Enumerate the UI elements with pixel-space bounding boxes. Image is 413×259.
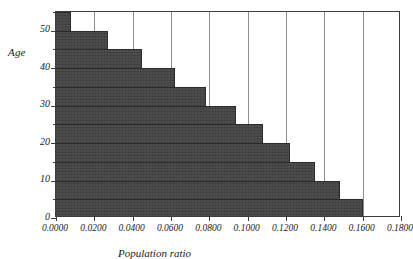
y-axis-tick-label-group: 01020304050 [26,11,50,217]
y-axis-tick-minor [53,124,56,125]
bar [56,106,236,125]
y-axis-tick-minor [53,162,56,163]
x-axis-tick-label: 0.0200 [80,223,106,233]
y-axis-tick-label: 50 [40,23,50,34]
y-axis-tick-minor [53,199,56,200]
y-axis-tick [51,106,56,107]
bar [56,49,142,68]
bar [56,143,290,162]
bar [56,68,175,87]
bar [56,199,363,216]
bar [56,12,71,31]
x-axis-tick-label: 0.1200 [272,223,298,233]
x-axis-tick [401,216,402,221]
gridline-vertical [363,12,364,216]
x-axis-tick-label: 0.1800 [387,223,413,233]
x-axis-tick-label: 0.1000 [234,223,260,233]
x-axis-title: Population ratio [118,247,191,259]
x-axis-tick-label: 0.0000 [42,223,68,233]
x-axis-tick-label: 0.0400 [119,223,145,233]
x-axis-tick-label-group: 0.00000.02000.04000.06000.08000.10000.12… [55,221,400,237]
bar [56,87,206,106]
bar [56,162,315,181]
x-axis-tick-label: 0.0600 [157,223,183,233]
bar [56,181,340,200]
y-axis-tick-label: 0 [45,211,50,222]
y-axis-tick-minor [53,49,56,50]
y-axis-tick-label: 20 [40,136,50,147]
plot-area [55,11,400,217]
y-axis-tick [51,143,56,144]
y-axis-tick-minor [53,12,56,13]
y-axis-tick [51,31,56,32]
y-axis-tick-label: 40 [40,61,50,72]
plot-inner [56,12,399,216]
y-axis-tick [51,68,56,69]
y-axis-tick [51,181,56,182]
y-axis-tick-label: 10 [40,173,50,184]
y-axis-tick-minor [53,87,56,88]
bar [56,124,263,143]
x-axis-tick-label: 0.1600 [349,223,375,233]
y-axis-tick-label: 30 [40,98,50,109]
bar [56,31,108,50]
y-axis-title: Age [8,46,26,58]
x-axis-tick-label: 0.0800 [195,223,221,233]
x-axis-tick-label: 0.1400 [310,223,336,233]
